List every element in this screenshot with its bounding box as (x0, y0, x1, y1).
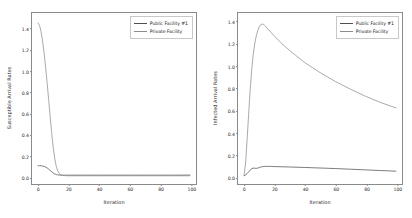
x-tick-label: 20 (66, 184, 72, 192)
y-tick-label: 1.2 (22, 48, 32, 53)
plot-area-susceptible: 0.00.20.40.60.81.01.21.4 020406080100 Pu… (31, 12, 197, 185)
x-tick-label: 40 (303, 184, 309, 192)
chart-panel-infected: 0.00.20.40.60.81.01.21.4 020406080100 Pu… (206, 0, 412, 218)
legend-item-private: Private Facility (340, 28, 394, 36)
series-line (244, 166, 396, 175)
legend-item-private: Private Facility (134, 28, 188, 36)
legend-susceptible[interactable]: Public Facility #1 Private Facility (130, 16, 193, 39)
series-line (38, 23, 190, 176)
legend-label-public: Public Facility #1 (150, 21, 188, 26)
x-tick-label: 60 (334, 184, 340, 192)
legend-item-public: Public Facility #1 (134, 20, 188, 28)
x-tick-label: 20 (272, 184, 278, 192)
y-tick-label: 0.2 (22, 154, 32, 159)
y-tick-label: 0.6 (22, 112, 32, 117)
series-line (244, 24, 396, 175)
y-tick-label: 1.0 (228, 64, 238, 69)
x-tick-label: 100 (188, 184, 196, 192)
y-tick-label: 0.0 (228, 176, 238, 181)
legend-line-icon-private (340, 31, 353, 32)
figure-canvas: 0.00.20.40.60.81.01.21.4 020406080100 Pu… (0, 0, 412, 218)
series-line (38, 166, 190, 175)
y-tick-label: 0.4 (22, 133, 32, 138)
legend-line-icon-public (340, 23, 353, 24)
x-tick-label: 80 (364, 184, 370, 192)
x-tick-label: 40 (97, 184, 103, 192)
legend-label-private: Private Facility (356, 29, 388, 34)
legend-label-private: Private Facility (150, 29, 182, 34)
legend-label-public: Public Facility #1 (356, 21, 394, 26)
x-tick-label: 60 (128, 184, 134, 192)
y-tick-label: 0.6 (228, 109, 238, 114)
y-tick-label: 1.4 (228, 19, 238, 24)
y-tick-label: 0.2 (228, 153, 238, 158)
x-axis-title-infected: Iteration (237, 199, 403, 205)
plot-area-infected: 0.00.20.40.60.81.01.21.4 020406080100 Pu… (237, 12, 403, 185)
y-axis-title-infected: Infected Arrival Rates (212, 71, 218, 125)
y-tick-label: 1.0 (22, 69, 32, 74)
y-tick-label: 0.8 (22, 90, 32, 95)
y-axis-title-susceptible: Susceptible Arrival Rates (6, 67, 12, 129)
legend-line-icon-public (134, 23, 147, 24)
y-tick-label: 0.4 (228, 131, 238, 136)
y-tick-label: 1.4 (22, 26, 32, 31)
x-tick-label: 0 (37, 184, 40, 192)
x-tick-label: 80 (158, 184, 164, 192)
y-tick-label: 0.0 (22, 176, 32, 181)
legend-line-icon-private (134, 31, 147, 32)
x-tick-label: 100 (394, 184, 402, 192)
chart-panel-susceptible: 0.00.20.40.60.81.01.21.4 020406080100 Pu… (0, 0, 206, 218)
legend-item-public: Public Facility #1 (340, 20, 394, 28)
y-tick-label: 1.2 (228, 42, 238, 47)
legend-infected[interactable]: Public Facility #1 Private Facility (336, 16, 399, 39)
y-tick-label: 0.8 (228, 86, 238, 91)
x-tick-label: 0 (243, 184, 246, 192)
x-axis-title-susceptible: Iteration (31, 199, 197, 205)
